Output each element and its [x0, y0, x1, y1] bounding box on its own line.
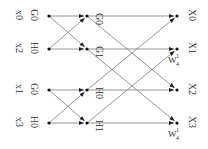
- edge-s2-3: [87, 49, 175, 121]
- middle-label-1: G1: [94, 46, 105, 58]
- edge-s1-2: [49, 18, 85, 49]
- svg-text:1: 1: [176, 127, 179, 133]
- output-node-0: [175, 14, 178, 17]
- input-node-0: [47, 14, 50, 17]
- input-label-0: x0: [14, 10, 25, 20]
- input-stage-label-0: G0: [29, 9, 40, 21]
- output-label-1: X1: [187, 42, 198, 54]
- edge-s1-1: [49, 16, 85, 47]
- twiddle-factor-1: W14: [168, 53, 179, 67]
- input-node-2: [47, 88, 50, 91]
- butterfly-diagram: x0G0x2H0x1G0x3H0G0G1H0H1X0X1W14X2X3W14: [0, 0, 208, 149]
- output-node-1: [175, 47, 178, 50]
- input-stage-label-3: H0: [29, 116, 40, 128]
- edges: [49, 16, 175, 123]
- edge-s1-5: [49, 90, 85, 121]
- input-node-1: [47, 47, 50, 50]
- svg-text:1: 1: [176, 53, 179, 59]
- output-label-3: X3: [187, 116, 198, 128]
- output-label-2: X2: [187, 83, 198, 95]
- output-node-3: [175, 121, 178, 124]
- middle-label-2: H0: [94, 87, 105, 99]
- middle-node-2: [85, 88, 88, 91]
- input-label-3: x3: [14, 117, 25, 127]
- middle-label-3: H1: [94, 120, 105, 132]
- input-stage-label-2: G0: [29, 83, 40, 95]
- input-label-2: x1: [14, 84, 25, 94]
- middle-node-3: [85, 121, 88, 124]
- edge-s1-6: [49, 92, 85, 123]
- input-node-3: [47, 121, 50, 124]
- twiddle-factor-3: W14: [168, 127, 179, 141]
- middle-node-1: [85, 47, 88, 50]
- middle-node-0: [85, 14, 88, 17]
- output-node-2: [175, 88, 178, 91]
- svg-text:4: 4: [176, 61, 179, 67]
- input-stage-label-1: H0: [29, 42, 40, 54]
- input-label-1: x2: [14, 43, 25, 53]
- output-label-0: X0: [187, 9, 198, 21]
- svg-text:4: 4: [176, 135, 179, 141]
- middle-label-0: G0: [94, 13, 105, 25]
